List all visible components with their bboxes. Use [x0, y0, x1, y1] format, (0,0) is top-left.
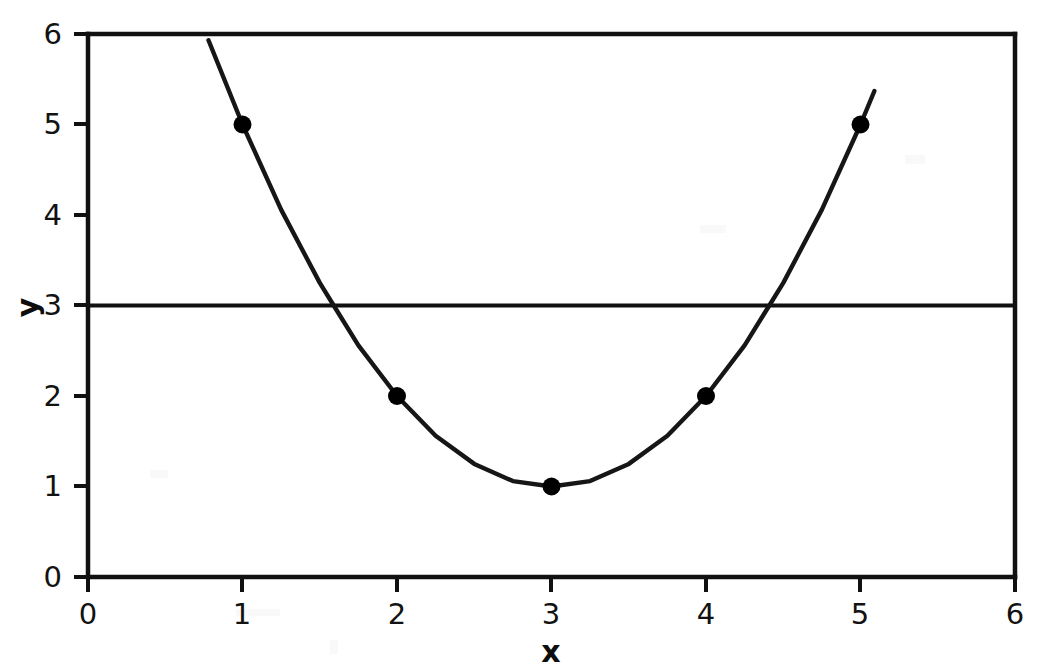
plot-area	[0, 0, 1043, 664]
y-tick-label-5: 5	[44, 110, 62, 139]
data-point-2-2	[388, 387, 406, 405]
y-tick-label-6: 6	[44, 20, 62, 49]
y-tick-label-1: 1	[44, 472, 62, 501]
chart-figure: 6 5 4 3 2 1 0 0 1 2 3 4 5 6 x y	[0, 0, 1043, 664]
y-tick-label-4: 4	[44, 201, 62, 230]
x-tick-label-0: 0	[79, 600, 97, 629]
x-tick-label-2: 2	[388, 600, 406, 629]
data-point-4-2	[697, 387, 715, 405]
data-point-5-5	[852, 116, 870, 134]
data-point-1-5	[234, 116, 252, 134]
x-tick-label-5: 5	[851, 600, 869, 629]
x-tick-label-4: 4	[697, 600, 715, 629]
y-tick-label-0: 0	[44, 563, 62, 592]
x-tick-label-6: 6	[1006, 600, 1024, 629]
x-tick-label-3: 3	[542, 600, 560, 629]
y-tick-label-2: 2	[44, 382, 62, 411]
x-tick-label-1: 1	[233, 600, 251, 629]
parabola-curve	[209, 40, 875, 486]
y-axis-title: y	[10, 298, 45, 318]
data-point-3-1	[543, 478, 561, 496]
x-axis-title: x	[541, 634, 560, 664]
y-tick-label-3: 3	[44, 291, 62, 320]
